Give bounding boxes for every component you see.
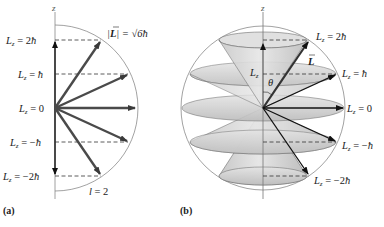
magnitude-label: |L| = √6ħ — [107, 28, 148, 39]
level-label-hbar: Lz = ħ — [17, 69, 43, 82]
vector-l-label: L — [307, 56, 314, 67]
level-label-minus-2hbar: Lz = −2ħ — [2, 171, 39, 184]
angular-momentum-figure: z Lz = 2ħ Lz = ħ Lz = 0 Lz = −ħ Lz = −2ħ — [0, 0, 384, 227]
theta-label: θ — [268, 77, 273, 88]
panel-b: z Lz θ L Lz = 2ħ Lz = ħ Lz = 0 — [180, 3, 373, 217]
angular-momentum-vectors — [55, 42, 135, 174]
level-label-2hbar: Lz = 2ħ — [5, 35, 36, 48]
z-axis-label: z — [51, 3, 56, 13]
level-label-minus-hbar: Lz = −ħ — [9, 137, 41, 150]
svg-text:Lz = −2ħ: Lz = −2ħ — [313, 175, 350, 188]
panel-a: z Lz = 2ħ Lz = ħ Lz = 0 Lz = −ħ Lz = −2ħ — [2, 3, 148, 217]
level-labels-a: Lz = 2ħ Lz = ħ Lz = 0 Lz = −ħ Lz = −2ħ — [2, 35, 44, 184]
quantum-number-label: l = 2 — [89, 186, 108, 197]
svg-text:Lz = 0: Lz = 0 — [346, 103, 372, 116]
svg-text:Lz = −ħ: Lz = −ħ — [341, 140, 373, 153]
level-label-0: Lz = 0 — [18, 103, 44, 116]
z-axis-label-b: z — [260, 3, 265, 13]
svg-text:Lz = ħ: Lz = ħ — [341, 68, 367, 81]
panel-a-caption: (a) — [3, 205, 15, 217]
svg-text:Lz = 2ħ: Lz = 2ħ — [315, 31, 346, 44]
panel-b-caption: (b) — [180, 205, 192, 217]
